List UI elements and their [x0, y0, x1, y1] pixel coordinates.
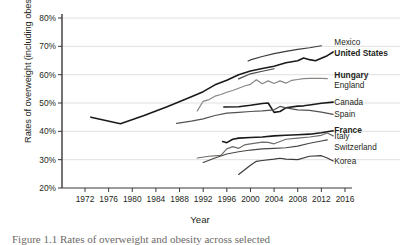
- y-tick-label: 70%: [39, 41, 56, 51]
- series-label-mexico: Mexico: [334, 38, 360, 47]
- x-tick-label: 1972: [76, 194, 95, 204]
- y-tick-label: 40%: [39, 126, 56, 136]
- x-tick-label: 1976: [99, 194, 118, 204]
- series-label-england: England: [334, 81, 364, 90]
- series-label-spain: Spain: [334, 110, 355, 119]
- series-line-mexico: [248, 46, 321, 61]
- series-label-switzerland: Switzerland: [334, 143, 377, 152]
- y-tick-label: 50%: [39, 98, 56, 108]
- x-tick-label: 2004: [265, 194, 284, 204]
- series-lines: [91, 46, 333, 175]
- x-tick-label: 2012: [312, 194, 331, 204]
- x-tick-label: 2016: [336, 194, 355, 204]
- y-axis-ticks: 20%30%40%50%60%70%80%: [39, 13, 62, 193]
- x-tick-label: 1984: [147, 194, 166, 204]
- series-label-hungary: Hungary: [334, 70, 368, 80]
- series-label-korea: Korea: [334, 157, 356, 166]
- x-tick-label: 1996: [217, 194, 236, 204]
- x-tick-label: 1980: [123, 194, 142, 204]
- figure-caption: Figure 1.1 Rates of overweight and obesi…: [12, 233, 408, 245]
- y-tick-label: 80%: [39, 13, 56, 23]
- series-label-united-states: United States: [334, 48, 388, 58]
- x-tick-label: 2000: [241, 194, 260, 204]
- x-tick-label: 1992: [194, 194, 213, 204]
- x-axis-ticks: 1972197619801984198819921996200020042008…: [76, 188, 355, 204]
- series-line-united-states: [91, 52, 333, 124]
- series-line-canada: [177, 106, 334, 123]
- x-tick-label: 2008: [288, 194, 307, 204]
- series-line-france: [223, 131, 334, 143]
- x-axis-title: Year: [0, 214, 400, 225]
- series-label-italy: Italy: [334, 132, 350, 141]
- y-tick-label: 30%: [39, 155, 56, 165]
- x-tick-label: 1988: [170, 194, 189, 204]
- y-axis-title: Rates of overweight (including obesity): [23, 0, 33, 155]
- y-tick-label: 60%: [39, 70, 56, 80]
- series-line-korea: [239, 156, 334, 175]
- y-tick-label: 20%: [39, 183, 56, 193]
- series-line-switzerland: [203, 140, 327, 163]
- series-label-canada: Canada: [334, 98, 363, 107]
- series-labels: MexicoUnited StatesHungaryEnglandCanadaS…: [334, 38, 388, 166]
